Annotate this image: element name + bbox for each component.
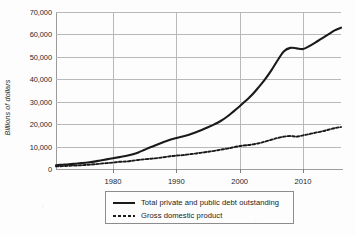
x-tick-mark-2000 bbox=[240, 169, 241, 173]
y-tick-label-60000: 60,000 bbox=[6, 30, 52, 39]
y-tick-label-30000: 30,000 bbox=[6, 97, 52, 106]
x-tick-label-1990: 1990 bbox=[156, 177, 196, 186]
y-tick-label-50000: 50,000 bbox=[6, 52, 52, 61]
x-axis-line bbox=[56, 169, 343, 170]
y-tick-label-20000: 20,000 bbox=[6, 120, 52, 129]
chart-figure: Billions of dollars 010,00020,00030,0004… bbox=[0, 0, 355, 235]
y-tick-label-0: 0 bbox=[6, 165, 52, 174]
x-tick-mark-2010 bbox=[303, 169, 304, 173]
y-tick-label-10000: 10,000 bbox=[6, 142, 52, 151]
legend-label-gdp: Gross domestic product bbox=[141, 211, 222, 220]
solid-line-swatch bbox=[113, 199, 135, 207]
x-tick-label-2000: 2000 bbox=[220, 177, 260, 186]
y-tick-label-40000: 40,000 bbox=[6, 75, 52, 84]
chart-legend: Total private and public debt outstandin… bbox=[105, 191, 294, 224]
series-lines bbox=[56, 12, 341, 169]
x-tick-mark-1990 bbox=[176, 169, 177, 173]
legend-item-debt: Total private and public debt outstandin… bbox=[113, 197, 279, 208]
x-tick-label-2010: 2010 bbox=[283, 177, 323, 186]
legend-item-gdp: Gross domestic product bbox=[113, 210, 222, 221]
series-line-debt bbox=[56, 28, 341, 165]
x-tick-label-1980: 1980 bbox=[93, 177, 133, 186]
plot-area bbox=[56, 12, 341, 169]
x-tick-mark-1980 bbox=[113, 169, 114, 173]
y-axis-tick-labels: 010,00020,00030,00040,00050,00060,00070,… bbox=[0, 12, 52, 169]
y-tick-label-70000: 70,000 bbox=[6, 8, 52, 17]
legend-label-debt: Total private and public debt outstandin… bbox=[141, 198, 279, 207]
dashed-line-swatch bbox=[113, 212, 135, 220]
